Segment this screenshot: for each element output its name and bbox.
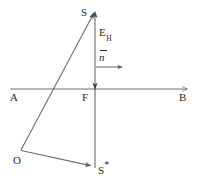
ray-origin-to-image [21,151,91,166]
label-axis-B: B [179,92,186,103]
label-field-EH: EH [99,27,111,41]
label-axis-A: A [10,92,18,103]
label-image-S-star: S* [98,161,109,176]
ray-origin-to-source [21,16,93,151]
label-field-E: E [99,26,106,38]
label-source-S: S [81,7,87,18]
optics-ray-diagram: S EH n A F B O S* [0,0,198,180]
label-focus-F: F [82,92,88,103]
label-normal-vector: n [99,50,107,63]
label-origin-O: O [13,155,21,166]
label-normal-n: n [99,51,105,63]
label-image-asterisk: * [104,159,109,170]
label-field-subscript-H: H [106,34,111,43]
